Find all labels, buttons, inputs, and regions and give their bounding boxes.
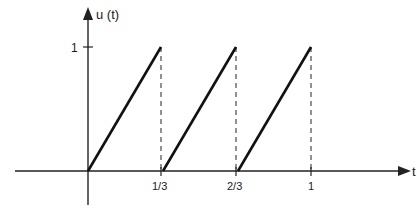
ramp-2	[163, 47, 236, 171]
ramp-3	[238, 47, 311, 171]
x-axis-label: t	[412, 164, 416, 179]
x-axis-arrow-icon	[398, 166, 411, 176]
y-axis-arrow-icon	[83, 7, 93, 20]
y-axis-label: u (t)	[96, 7, 119, 22]
sawtooth-chart: u (t) t 1 1/3 2/3 1	[0, 0, 417, 210]
x-tick-label-1-3: 1/3	[152, 180, 167, 192]
ramp-1	[88, 47, 161, 171]
x-tick-label-1: 1	[308, 180, 314, 192]
y-tick-label-1: 1	[71, 41, 78, 55]
x-tick-label-2-3: 2/3	[227, 180, 242, 192]
